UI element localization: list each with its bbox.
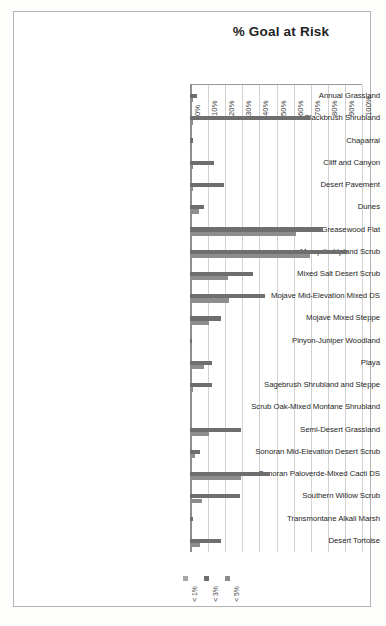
bar-group	[190, 441, 361, 463]
legend-swatch-icon	[225, 576, 230, 581]
bar-1	[190, 116, 310, 120]
chart-row: Playa	[0, 352, 386, 374]
bar-2	[190, 143, 191, 147]
bar-2	[190, 387, 193, 391]
bar-group	[190, 485, 361, 507]
chart-row: Sonoran Paloverde-Mixed Cacti DS	[0, 463, 386, 485]
bar-2	[190, 98, 193, 102]
chart-row: Desert Pavement	[0, 174, 386, 196]
bar-group	[190, 508, 361, 530]
bar-2	[190, 120, 193, 124]
legend-swatch-icon	[204, 576, 209, 581]
bar-2	[190, 165, 193, 169]
bar-group	[190, 330, 361, 352]
bar-group	[190, 374, 361, 396]
bar-2	[190, 321, 209, 325]
bar-group	[190, 530, 361, 552]
bar-group	[190, 307, 361, 329]
chart-row: Scrub Oak-Mixed Montane Shrubland	[0, 396, 386, 418]
chart-row: Greasewood Flat	[0, 218, 386, 240]
chart-title: % Goal at Risk	[196, 24, 366, 39]
bar-2	[190, 209, 199, 213]
x-axis-tick-labels: 0%10%20%30%40%50%60%70%80%90%100%	[0, 48, 386, 82]
bar-2	[190, 276, 228, 280]
bar-group	[190, 85, 361, 107]
chart-row: Desert Tortoise	[0, 530, 386, 552]
chart-row: Southern Willow Scrub	[0, 485, 386, 507]
chart-row: Transmontane Alkali Marsh	[0, 508, 386, 530]
chart-row: Chaparral	[0, 129, 386, 151]
bar-2	[190, 454, 195, 458]
bar-group	[190, 129, 361, 151]
chart-row: Sagebrush Shrubland and Steppe	[0, 374, 386, 396]
chart-row: Cliff and Canyon	[0, 152, 386, 174]
chart-row: Annual Grassland	[0, 85, 386, 107]
bar-2	[190, 187, 193, 191]
bar-group	[190, 107, 361, 129]
chart-row: Mixed Salt Desert Scrub	[0, 263, 386, 285]
chart-row: Mojave Mid-Elevation Mixed DS	[0, 285, 386, 307]
bar-group	[190, 196, 361, 218]
chart-row: Dunes	[0, 196, 386, 218]
bar-group	[190, 419, 361, 441]
bar-group	[190, 241, 361, 263]
legend-swatch-icon	[183, 576, 188, 581]
bar-group	[190, 352, 361, 374]
chart-row: Pinyon-Juniper Woodland	[0, 330, 386, 352]
bar-1	[190, 161, 214, 165]
bar-group	[190, 174, 361, 196]
bar-2	[190, 543, 200, 547]
bar-2	[190, 499, 202, 503]
chart-row: Blackbrush Shrubland	[0, 107, 386, 129]
bar-1	[190, 183, 224, 187]
bar-group	[190, 152, 361, 174]
chart-page: % Goal at Risk 0%10%20%30%40%50%60%70%80…	[0, 0, 386, 626]
bar-1	[190, 383, 212, 387]
bar-2	[190, 432, 209, 436]
bar-2	[190, 476, 241, 480]
bar-2	[190, 365, 204, 369]
bar-group	[190, 218, 361, 240]
chart-legend: < 1%< 3%< 5%	[0, 576, 386, 622]
chart-row: Mojave Mixed Steppe	[0, 307, 386, 329]
bar-group	[190, 263, 361, 285]
chart-row: Semi-Desert Grassland	[0, 419, 386, 441]
chart-row: Mesquite Upland Scrub	[0, 241, 386, 263]
bar-2	[190, 254, 310, 258]
bar-2	[190, 232, 296, 236]
bar-2	[190, 343, 191, 347]
bar-group	[190, 396, 361, 418]
legend-item-2[interactable]: < 5%	[214, 576, 240, 590]
legend-label: < 5%	[233, 581, 240, 607]
bar-2	[190, 298, 229, 302]
bar-group	[190, 285, 361, 307]
bar-group	[190, 463, 361, 485]
bar-2	[190, 521, 192, 525]
chart-row: Sonoran Mid-Elevation Desert Scrub	[0, 441, 386, 463]
